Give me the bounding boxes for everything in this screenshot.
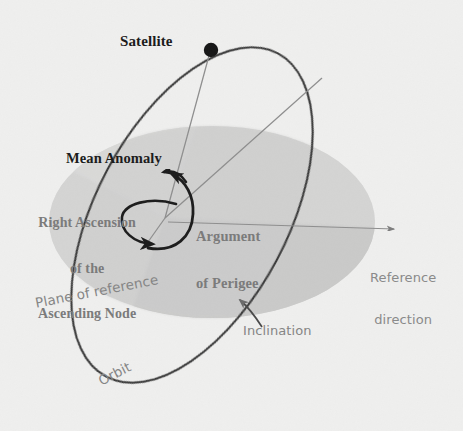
label-satellite: Satellite [120, 33, 173, 49]
raan-line-1: Right Ascension [38, 215, 136, 230]
label-right-ascension-of-ascending-node: Right Ascension of the Ascending Node [38, 185, 136, 351]
satellite-marker-icon [204, 43, 218, 57]
ref-dir-line-1: Reference [370, 271, 436, 285]
label-argument-of-perigee: Argument of Perigee [196, 198, 260, 323]
raan-line-3: Ascending Node [38, 306, 136, 321]
arg-perigee-line-2: of Perigee [196, 276, 260, 292]
ref-dir-line-2: direction [370, 313, 436, 327]
raan-line-2: of the [38, 261, 136, 276]
label-inclination: Inclination [243, 324, 312, 338]
orbital-elements-diagram: Satellite Mean Anomaly Right Ascension o… [0, 0, 463, 431]
label-reference-direction: Reference direction [370, 243, 436, 355]
arg-perigee-line-1: Argument [196, 229, 260, 245]
label-mean-anomaly: Mean Anomaly [66, 151, 162, 167]
